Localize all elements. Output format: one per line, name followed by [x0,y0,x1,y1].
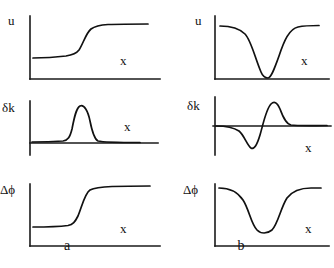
y-axis-label: Δϕ [0,183,15,196]
x-axis-label: x [124,120,131,133]
y-axis-label: Δϕ [183,183,198,196]
curve-a-dphi [33,186,150,227]
x-axis-label: x [120,54,127,67]
curve-b-u [220,26,319,79]
panel-caption-a: a [47,238,87,254]
panel-a-dk: δk x [0,93,167,175]
x-axis-label: x [120,222,127,235]
y-axis-label: δk [2,101,15,114]
plot-a-u [0,8,167,90]
plot-a-dk [0,93,167,175]
y-axis-label: u [8,14,15,27]
plot-b-u [167,8,334,90]
x-axis-label: x [305,141,312,154]
panel-caption-b: b [221,238,261,254]
panel-b-u: u x [167,8,334,90]
panel-a-u: u x [0,8,167,90]
y-axis-label: δk [187,99,200,112]
y-axis-label: u [195,14,202,27]
figure-root: u x δk x Δϕ x a u x [0,0,334,268]
x-axis-label: x [305,222,312,235]
curve-a-u [33,24,148,58]
panel-b-dk: δk x [167,93,334,175]
x-axis-label: x [301,54,308,67]
